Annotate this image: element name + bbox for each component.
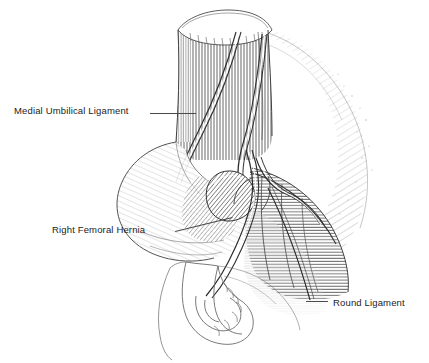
leader-line-round-ligament xyxy=(306,301,328,302)
label-text-medial-umbilical-ligament: Medial Umbilical Ligament xyxy=(14,106,129,116)
label-text-round-ligament: Round Ligament xyxy=(333,298,405,308)
illustration-canvas: Medial Umbilical Ligament Right Femoral … xyxy=(0,0,429,363)
anatomical-illustration xyxy=(0,0,429,363)
label-text-right-femoral-hernia: Right Femoral Hernia xyxy=(52,225,145,235)
leader-line-medial-umbilical-ligament xyxy=(150,113,196,114)
